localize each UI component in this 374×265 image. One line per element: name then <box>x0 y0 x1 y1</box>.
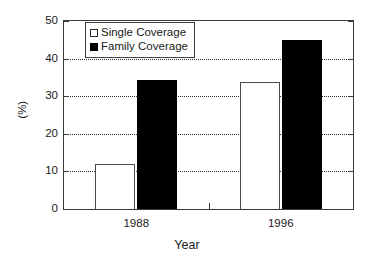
y-axis-title: (%) <box>17 101 29 119</box>
y-axis-tick <box>348 59 353 60</box>
legend-label: Single Coverage <box>101 27 186 39</box>
y-axis-tick-label: 30 <box>45 90 58 102</box>
x-axis-tick-label: 1988 <box>123 218 149 230</box>
y-axis-tick <box>64 59 69 60</box>
bar-1996-family-coverage <box>282 40 322 209</box>
y-axis-tick-label: 50 <box>45 15 58 27</box>
legend-item-single-coverage: Single Coverage <box>90 26 188 40</box>
y-axis-tick-label: 40 <box>45 53 58 65</box>
legend-item-family-coverage: Family Coverage <box>90 40 188 54</box>
x-axis-title: Year <box>0 239 374 252</box>
bar-1988-single-coverage <box>95 164 135 209</box>
y-axis-tick <box>348 21 353 22</box>
bar-chart-figure: 0102030405019881996 (%) Year Single Cove… <box>0 0 374 265</box>
y-axis-tick-label: 10 <box>45 166 58 178</box>
legend-swatch-open-icon <box>90 29 98 37</box>
y-axis-tick-label: 20 <box>45 128 58 140</box>
y-axis-tick <box>64 21 69 22</box>
y-axis-tick <box>348 171 353 172</box>
y-axis-tick-label: 0 <box>52 203 58 215</box>
y-axis-tick <box>64 209 69 210</box>
y-axis-tick <box>64 96 69 97</box>
y-axis-tick <box>64 134 69 135</box>
x-axis-tick-label: 1996 <box>268 218 294 230</box>
y-axis-tick <box>64 171 69 172</box>
bar-1996-single-coverage <box>240 82 280 209</box>
y-axis-tick <box>348 209 353 210</box>
chart-legend: Single Coverage Family Coverage <box>85 22 195 58</box>
legend-swatch-filled-icon <box>90 43 98 51</box>
bar-1988-family-coverage <box>137 80 177 209</box>
y-axis-tick <box>348 134 353 135</box>
legend-label: Family Coverage <box>101 41 188 53</box>
x-axis-tick <box>209 203 210 209</box>
y-axis-tick <box>348 96 353 97</box>
